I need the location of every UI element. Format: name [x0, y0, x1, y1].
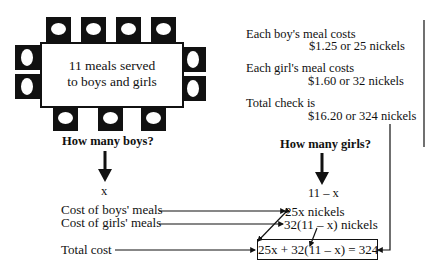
down-arrow-icon	[98, 169, 112, 182]
connector-arrows	[0, 0, 428, 270]
down-arrow-icon	[315, 172, 329, 185]
